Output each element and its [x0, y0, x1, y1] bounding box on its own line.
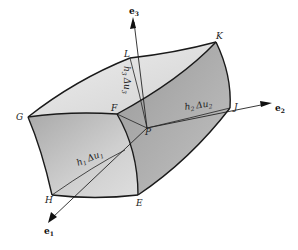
vertex-label-F: F: [110, 103, 118, 113]
arrowhead-e1: [48, 212, 57, 223]
volume-element-diagram: L K G F P J H E e3 e2 e1 h3Δu3 h2Δu2 h1Δ…: [0, 0, 298, 250]
vertex-label-G: G: [16, 112, 23, 122]
arrowhead-e2: [260, 101, 272, 107]
vertex-label-E: E: [135, 198, 143, 208]
axis-label-e3: e3: [129, 6, 139, 17]
axis-label-e2: e2: [275, 103, 285, 114]
edge-length-h3: h3Δu3: [121, 66, 132, 94]
axis-label-e1: e1: [44, 226, 54, 237]
vertex-label-J: J: [232, 102, 239, 112]
vertex-label-L: L: [123, 49, 130, 59]
vertex-label-H: H: [44, 195, 53, 205]
vertex-label-K: K: [215, 31, 224, 41]
arrowhead-e3: [130, 17, 136, 29]
front-face: [28, 113, 138, 198]
vertex-label-P: P: [144, 127, 152, 137]
